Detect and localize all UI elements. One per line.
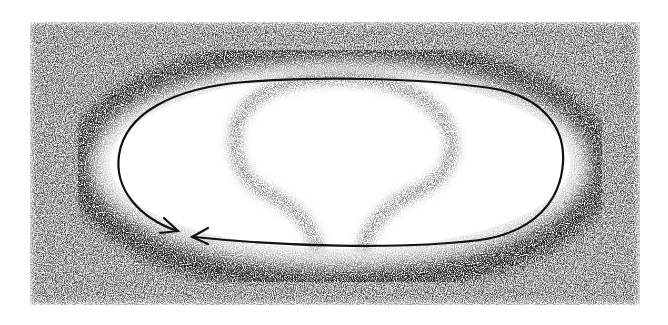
loop-diagram <box>0 0 668 325</box>
